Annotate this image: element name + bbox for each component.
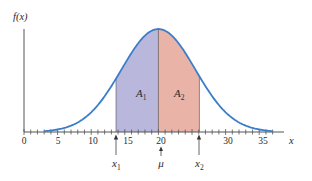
x1-arrow-icon (114, 135, 118, 156)
x2-arrow-icon (197, 135, 201, 156)
x2-label: x2 (194, 157, 204, 172)
mu-arrow-icon (159, 147, 163, 157)
normal-distribution-chart: f(x) x 0 5 10 15 20 30 35 A1 A2 x1 μ x2 (0, 0, 312, 181)
tick-label-15: 15 (123, 136, 133, 146)
y-axis-label: f(x) (13, 11, 28, 23)
tick-label-10: 10 (88, 136, 98, 146)
x-axis-label: x (288, 135, 294, 146)
tick-label-35: 35 (258, 136, 268, 146)
tick-label-0: 0 (22, 136, 27, 146)
tick-label-20: 20 (156, 136, 166, 146)
tick-label-5: 5 (56, 136, 61, 146)
tick-label-30: 30 (223, 136, 233, 146)
x1-label: x1 (111, 157, 121, 172)
mu-label: μ (157, 157, 164, 169)
